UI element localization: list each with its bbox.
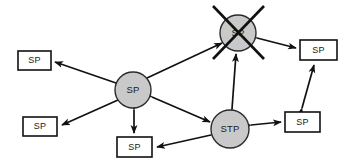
sp-box-right-top[interactable]: SP xyxy=(300,40,337,60)
link-center-to-failed[interactable] xyxy=(147,43,222,78)
link-failed-to-righttop[interactable] xyxy=(257,38,296,48)
link-stp-to-rightbottom[interactable] xyxy=(251,122,281,125)
sp-box-lower-left[interactable]: SP xyxy=(23,117,57,136)
sp-box-lower-left-label: SP xyxy=(34,121,46,131)
sp-box-right-top-label: SP xyxy=(312,45,324,55)
sp-circle-center[interactable]: SP xyxy=(115,72,151,108)
network-diagram-canvas: SP SP SP SP SP SP xyxy=(0,0,347,168)
edges-layer xyxy=(55,38,314,147)
sp-box-right-bottom-label: SP xyxy=(296,117,308,127)
link-center-to-lowerleft[interactable] xyxy=(62,100,118,125)
link-stp-to-failed[interactable] xyxy=(232,54,236,109)
link-rightbottom-to-righttop[interactable] xyxy=(302,65,314,108)
sp-box-top-left[interactable]: SP xyxy=(18,51,51,70)
stp-circle-bottom-label: STP xyxy=(220,123,239,134)
sp-box-right-bottom[interactable]: SP xyxy=(285,112,320,132)
stp-circle-bottom[interactable]: STP xyxy=(211,110,249,148)
link-center-to-stp[interactable] xyxy=(152,97,210,122)
sp-box-bottom-mid-label: SP xyxy=(128,142,140,152)
rect-nodes-layer: SP SP SP SP SP xyxy=(18,40,337,157)
sp-box-top-left-label: SP xyxy=(28,55,40,65)
network-diagram: SP SP SP SP SP SP xyxy=(0,0,347,168)
link-stp-to-bottommid[interactable] xyxy=(157,135,211,147)
link-center-to-topleft[interactable] xyxy=(55,62,116,83)
sp-box-bottom-mid[interactable]: SP xyxy=(117,137,152,157)
sp-circle-center-label: SP xyxy=(126,84,139,95)
